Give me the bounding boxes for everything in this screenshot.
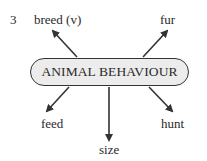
node-hunt: hunt (161, 117, 184, 130)
central-concept: ANIMAL BEHAVIOUR (30, 58, 189, 86)
central-concept-label: ANIMAL BEHAVIOUR (41, 64, 177, 80)
node-size: size (99, 143, 119, 156)
arrow-to-fur (143, 31, 167, 57)
node-feed: feed (41, 117, 63, 130)
item-number: 3 (10, 13, 17, 26)
arrow-to-feed (47, 87, 69, 111)
node-breed: breed (v) (34, 13, 81, 26)
node-fur: fur (160, 13, 175, 26)
arrow-to-hunt (149, 87, 172, 111)
arrow-to-breed (53, 31, 77, 57)
